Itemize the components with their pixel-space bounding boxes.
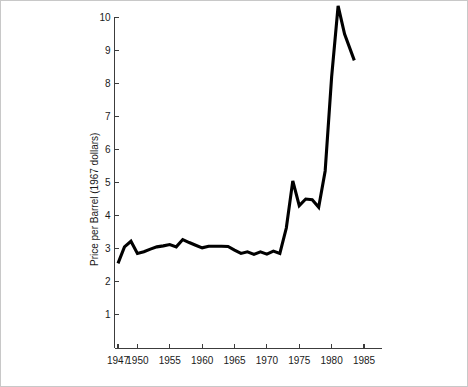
x-tick-label: 1950 — [126, 355, 149, 366]
y-tick-label: 3 — [105, 243, 111, 254]
y-tick-label-group: 12345678910 — [99, 12, 111, 320]
x-tick-label: 1980 — [321, 355, 344, 366]
x-tick-label-group: 194719501955196019651970197519801985 — [107, 355, 376, 366]
chart-plot-area: 12345678910 Price per Barrel (1967 dolla… — [1, 1, 468, 387]
chart-figure: 12345678910 Price per Barrel (1967 dolla… — [0, 0, 468, 387]
y-tick-label: 2 — [105, 276, 111, 287]
y-tick-label: 10 — [99, 12, 111, 23]
x-tick-label: 1955 — [159, 355, 182, 366]
x-tick-label: 1960 — [191, 355, 214, 366]
y-axis-title: Price per Barrel (1967 dollars) — [89, 133, 100, 266]
y-tick-label: 8 — [105, 78, 111, 89]
price-per-barrel-line — [118, 6, 354, 263]
x-tick-label: 1970 — [256, 355, 279, 366]
x-tick-label: 1965 — [223, 355, 246, 366]
y-tick-label: 4 — [105, 210, 111, 221]
x-tick-group — [118, 344, 364, 349]
y-tick-label: 1 — [105, 309, 111, 320]
y-tick-group — [115, 18, 120, 315]
x-tick-label: 1985 — [353, 355, 376, 366]
x-tick-label: 1975 — [288, 355, 311, 366]
y-axis: 12345678910 Price per Barrel (1967 dolla… — [89, 12, 119, 348]
y-tick-label: 9 — [105, 45, 111, 56]
y-tick-label: 5 — [105, 177, 111, 188]
y-tick-label: 6 — [105, 144, 111, 155]
y-tick-label: 7 — [105, 111, 111, 122]
x-axis: 194719501955196019651970197519801985 — [107, 344, 382, 366]
